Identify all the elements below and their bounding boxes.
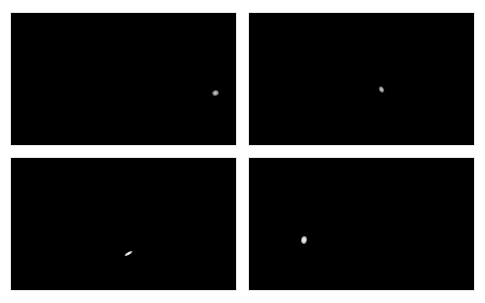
image-panel-top-left [11, 13, 236, 145]
object-blob [124, 250, 133, 257]
object-blob [211, 89, 219, 97]
image-panel-top-right [249, 13, 474, 145]
object-blob [300, 236, 307, 245]
object-blob [378, 85, 386, 94]
image-panel-bottom-left [11, 158, 236, 290]
image-panel-bottom-right [249, 158, 474, 290]
